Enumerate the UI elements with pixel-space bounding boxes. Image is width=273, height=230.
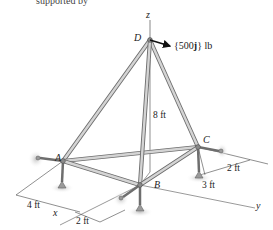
dimension-height: 8 ft (153, 110, 166, 120)
member-CD (150, 40, 198, 147)
dimension-c-offset-x: 2 ft (227, 163, 240, 173)
point-label-B: B (154, 179, 160, 190)
joint-B (138, 183, 143, 188)
joint-A (61, 159, 66, 164)
x-axis-label: x (52, 207, 58, 218)
joint-C (196, 145, 201, 150)
cut-off-caption: supported by (36, 0, 88, 6)
dimension-a-offset: 4 ft (27, 200, 40, 210)
point-label-C: C (203, 134, 210, 145)
member-AB (63, 161, 140, 185)
point-label-D: D (133, 32, 142, 43)
dimension-b-offset: 2 ft (76, 216, 89, 226)
load-label: {500j} lb (174, 40, 212, 51)
truss-members (63, 40, 198, 185)
z-axis-label: z (145, 9, 150, 20)
y-axis-label: y (255, 200, 261, 211)
space-truss-diagram: supported by z x y 4 ft 2 ft 3 ft 2 ft 8… (0, 0, 273, 230)
member-BD (140, 40, 150, 185)
point-label-A: A (54, 152, 62, 163)
member-AD (63, 40, 150, 161)
